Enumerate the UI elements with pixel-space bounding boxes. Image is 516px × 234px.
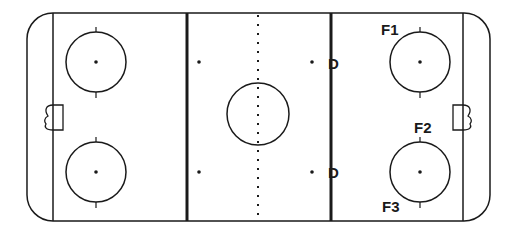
left-top-faceoff-circle: [66, 27, 126, 98]
label-f3: F3: [382, 198, 400, 215]
label-f1: F1: [381, 21, 399, 38]
hockey-rink-diagram: F1 D F2 D F3: [0, 0, 516, 234]
right-top-faceoff-circle: [390, 27, 450, 98]
left-goal-net: [45, 105, 63, 130]
neutral-dot-right-bottom: [310, 170, 314, 174]
label-f2: F2: [414, 119, 432, 136]
neutral-dot-right-top: [310, 60, 314, 64]
neutral-dot-left-top: [197, 60, 201, 64]
label-d-top: D: [328, 55, 339, 72]
left-bottom-faceoff-circle: [66, 137, 126, 208]
right-goal-net: [453, 105, 471, 130]
label-d-bottom: D: [328, 164, 339, 181]
neutral-dot-left-bottom: [197, 170, 201, 174]
rink-boards: [27, 13, 490, 221]
